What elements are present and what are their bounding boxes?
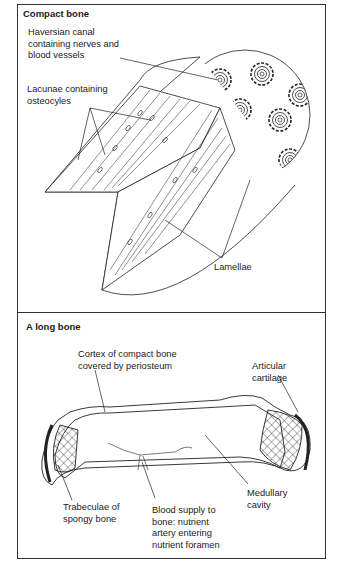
lamellae-label: Lamellae [214, 262, 252, 274]
medullary-cavity-label: Medullary cavity [247, 488, 287, 511]
blood-supply-label: Blood supply to bone: nutrient artery en… [152, 505, 220, 551]
articular-cartilage-label: Articular cartilage [252, 361, 287, 384]
long-bone-drawing [42, 370, 310, 500]
long-bone-title: A long bone [26, 321, 81, 332]
compact-bone-title: Compact bone [23, 8, 89, 19]
lacunae-label: Lacunae containing osteocyles [27, 84, 108, 107]
cortex-label: Cortex of compact bone covered by perios… [78, 349, 177, 372]
trabeculae-label: Trabeculae of spongy bone [63, 502, 120, 525]
haversian-canal-label: Haversian canal containing nerves and bl… [28, 27, 119, 62]
